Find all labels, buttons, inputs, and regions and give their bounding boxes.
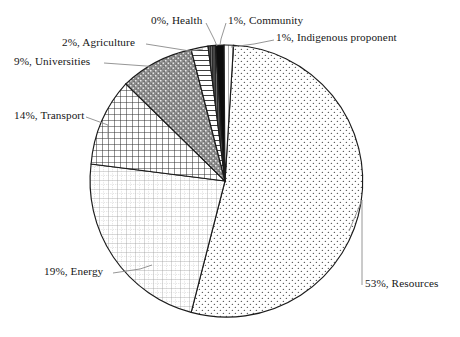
pie-label-health: 0%, Health	[151, 14, 202, 27]
pie-label-resources: 53%, Resources	[365, 277, 438, 290]
leader-line-indigenous-proponent	[231, 40, 274, 47]
pie-label-agriculture: 2%, Agriculture	[62, 36, 135, 49]
leader-line-agriculture	[146, 44, 203, 51]
pie-label-community: 1%, Community	[228, 14, 303, 27]
pie-label-energy: 19%, Energy	[44, 265, 103, 278]
pie-chart: 0%, Health 1%, Community 1%, Indigenous …	[0, 0, 460, 337]
pie-label-universities: 9%, Universities	[14, 55, 90, 68]
pie-label-indigenous-proponent: 1%, Indigenous proponent	[276, 31, 397, 44]
leader-line-community	[220, 23, 226, 45]
leader-line-health	[206, 23, 217, 46]
pie-label-transport: 14%, Transport	[14, 109, 84, 122]
